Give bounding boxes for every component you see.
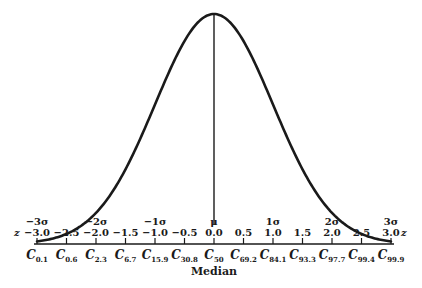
centile-label: C93.3 xyxy=(289,248,316,264)
z-axis-label-left: z xyxy=(13,227,20,238)
sigma-label: −2σ xyxy=(85,216,108,227)
sigma-label: −1σ xyxy=(144,216,167,227)
centile-label: C30.8 xyxy=(171,248,198,264)
normal-distribution-diagram: −3.0−2.5−2.0−1.5−1.0−0.50.00.51.01.52.02… xyxy=(0,0,422,288)
z-tick-label: 2.0 xyxy=(323,227,340,238)
centile-label: C0.6 xyxy=(56,248,78,264)
z-tick-label: 1.5 xyxy=(294,227,311,238)
sigma-label: 1σ xyxy=(266,216,280,227)
z-tick-label: −0.5 xyxy=(172,227,198,238)
z-axis-label-right: z xyxy=(400,227,407,238)
z-tick-label: −2.0 xyxy=(83,227,109,238)
centile-label: C50 xyxy=(204,248,223,264)
centile-label: C99.4 xyxy=(348,248,375,264)
centile-label: C0.1 xyxy=(26,248,48,264)
sigma-label: μ xyxy=(210,216,217,227)
z-tick-label: 1.0 xyxy=(264,227,281,238)
median-label: Median xyxy=(191,265,237,278)
centile-labels: C0.1C0.6C2.3C6.7C15.9C30.8C50C69.2C84.1C… xyxy=(26,248,404,264)
z-tick-label: 0.0 xyxy=(205,227,222,238)
z-tick-labels: −3.0−2.5−2.0−1.5−1.0−0.50.00.51.01.52.02… xyxy=(24,227,400,238)
z-tick-label: 0.5 xyxy=(235,227,252,238)
centile-label: C99.9 xyxy=(378,248,405,264)
centile-label: C97.7 xyxy=(319,248,346,264)
centile-label: C2.3 xyxy=(85,248,107,264)
z-tick-label: −1.0 xyxy=(142,227,168,238)
z-tick-label: −3.0 xyxy=(24,227,50,238)
z-axis-ticks xyxy=(37,238,391,244)
centile-label: C15.9 xyxy=(142,248,169,264)
z-tick-label: −1.5 xyxy=(113,227,139,238)
centile-label: C6.7 xyxy=(115,248,137,264)
centile-label: C69.2 xyxy=(230,248,257,264)
sigma-label: −3σ xyxy=(26,216,49,227)
centile-label: C84.1 xyxy=(260,248,287,264)
z-tick-label: −2.5 xyxy=(54,227,80,238)
sigma-label: 3σ xyxy=(384,216,398,227)
z-tick-label: 2.5 xyxy=(353,227,370,238)
sigma-label: 2σ xyxy=(325,216,339,227)
z-tick-label: 3.0 xyxy=(382,227,399,238)
